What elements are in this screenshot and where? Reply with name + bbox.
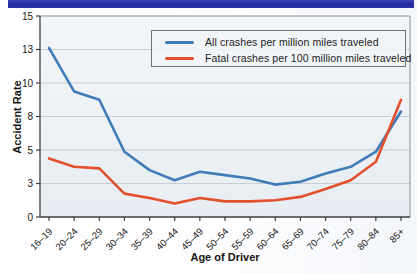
y-tick-label: 5 <box>27 145 33 156</box>
x-tick-label: 85+ <box>387 225 406 244</box>
legend-swatch-all-crashes <box>165 41 194 44</box>
legend-item-fatal-crashes: Fatal crashes per 100 million miles trav… <box>165 50 405 66</box>
x-tick-label: 45–49 <box>179 226 205 252</box>
x-tick-label: 80–84 <box>355 226 381 252</box>
y-tick-label: 8 <box>27 111 33 122</box>
legend-label-all-crashes: All crashes per million miles traveled <box>205 36 379 48</box>
legend-swatch-fatal-crashes <box>165 57 194 60</box>
x-tick-label: 20–24 <box>53 226 79 252</box>
x-tick-label: 30–34 <box>103 226 129 252</box>
y-tick-label: 13 <box>22 44 34 55</box>
x-tick-label: 60–64 <box>254 226 280 252</box>
y-tick-label: 3 <box>27 178 33 189</box>
y-tick-label: 0 <box>27 212 33 223</box>
x-tick-label: 50–54 <box>204 226 230 252</box>
legend-item-all-crashes: All crashes per million miles traveled <box>165 34 405 50</box>
legend-box: All crashes per million miles traveled F… <box>151 30 406 67</box>
x-tick-label: 25–29 <box>78 226 104 252</box>
y-tick-label: 15 <box>22 11 34 22</box>
y-axis-title: Accident Rate <box>11 72 25 162</box>
x-tick-label: 55–59 <box>229 226 255 252</box>
x-tick-label: 65–69 <box>279 226 305 252</box>
legend-label-fatal-crashes: Fatal crashes per 100 million miles trav… <box>205 52 411 64</box>
scanned-figure-page: 035810131516–1920–2425–2930–3435–3940–44… <box>0 0 417 274</box>
x-tick-label: 70–74 <box>305 226 331 252</box>
x-tick-label: 75–79 <box>330 226 356 252</box>
x-tick-label: 40–44 <box>154 226 180 252</box>
x-tick-label: 16–19 <box>28 226 54 252</box>
x-axis-title: Age of Driver <box>160 251 290 263</box>
x-tick-label: 35–39 <box>129 226 155 252</box>
